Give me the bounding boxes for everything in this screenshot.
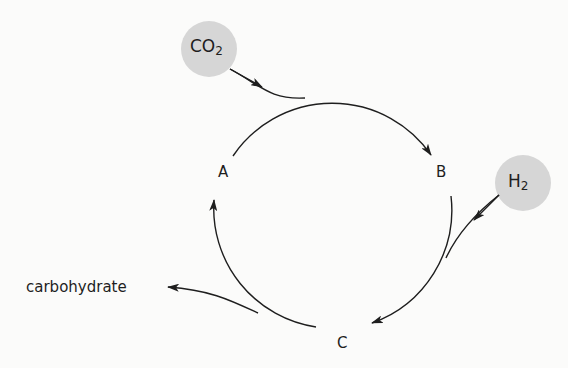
carbohydrate-label: carbohydrate: [26, 280, 127, 295]
node-c-label: C: [337, 336, 347, 351]
h2-input-arrow: [446, 195, 499, 258]
arc-a-to-b: [233, 103, 431, 156]
h2-label: H2: [508, 173, 528, 192]
arc-c-to-a: [214, 200, 316, 327]
co2-label: CO2: [190, 38, 223, 57]
carbohydrate-output-arrow: [168, 287, 258, 313]
node-b-label: B: [436, 165, 446, 180]
node-a-label: A: [218, 165, 228, 180]
arc-b-to-c: [372, 196, 452, 323]
co2-input-arrow: [230, 69, 305, 98]
cycle-diagram: [0, 0, 568, 368]
